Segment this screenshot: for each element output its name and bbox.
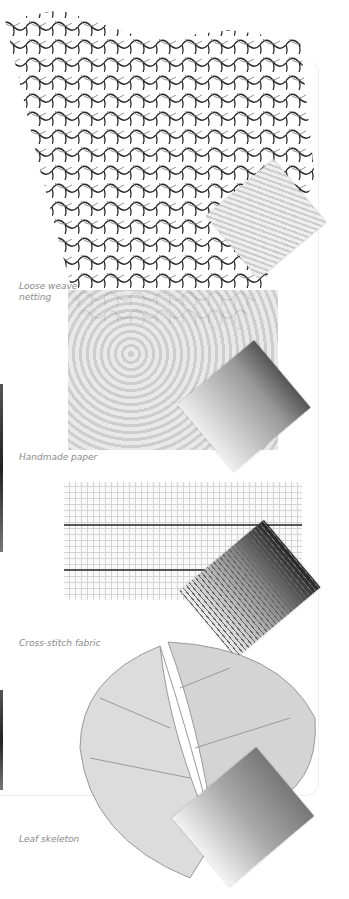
- caption-paper: Handmade paper: [19, 452, 97, 463]
- caption-leaf: Leaf skeleton: [19, 834, 79, 845]
- page-edge-bar: [0, 384, 3, 552]
- page-edge-bar-lower: [0, 690, 3, 790]
